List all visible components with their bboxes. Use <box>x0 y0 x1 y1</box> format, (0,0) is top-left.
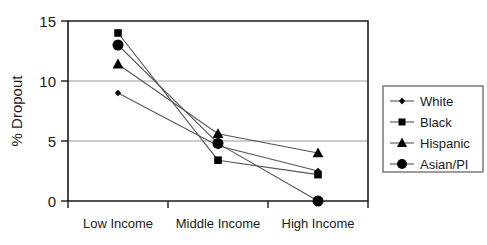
y-axis-title-group: % Dropout <box>8 75 25 147</box>
data-point-black-0 <box>114 29 122 37</box>
data-point-black-2 <box>314 171 322 179</box>
chart-page: 15 10 5 0 Low Income Middle Income High … <box>0 0 487 245</box>
plot-frame <box>68 21 368 201</box>
data-point-black-1 <box>214 156 222 164</box>
legend-label-white: White <box>420 94 453 109</box>
legend-label-hispanic: Hispanic <box>420 136 470 151</box>
data-point-hispanic-1 <box>213 128 224 138</box>
legend: White Black Hispanic Asian/PI <box>383 86 483 172</box>
data-point-hispanic-0 <box>113 59 124 69</box>
x-axis-category-labels: Low Income Middle Income High Income <box>83 216 355 231</box>
y-tick-label-0: 0 <box>48 193 56 210</box>
series-markers <box>113 29 324 206</box>
y-axis-tick-labels: 15 10 5 0 <box>39 13 56 210</box>
x-category-label-low-income: Low Income <box>83 216 153 231</box>
series-line-asian-pi <box>118 45 318 201</box>
y-tick-label-15: 15 <box>39 13 56 30</box>
dropout-line-chart: 15 10 5 0 Low Income Middle Income High … <box>0 0 487 245</box>
square-marker-icon <box>399 119 406 126</box>
legend-label-asian-pi: Asian/PI <box>420 157 468 172</box>
legend-label-black: Black <box>420 115 452 130</box>
circle-marker-icon <box>397 159 407 169</box>
data-point-white-0 <box>115 90 121 96</box>
data-point-asian-pi-0 <box>113 40 124 51</box>
y-axis-title: % Dropout <box>8 75 25 147</box>
series-line-black <box>118 33 318 175</box>
data-point-asian-pi-2 <box>313 196 324 207</box>
y-tick-label-10: 10 <box>39 73 56 90</box>
y-tick-label-5: 5 <box>48 133 56 150</box>
series-lines <box>118 33 318 201</box>
x-category-label-high-income: High Income <box>282 216 355 231</box>
y-axis-ticks <box>61 21 68 201</box>
x-category-label-middle-income: Middle Income <box>176 216 261 231</box>
data-point-asian-pi-1 <box>213 138 224 149</box>
